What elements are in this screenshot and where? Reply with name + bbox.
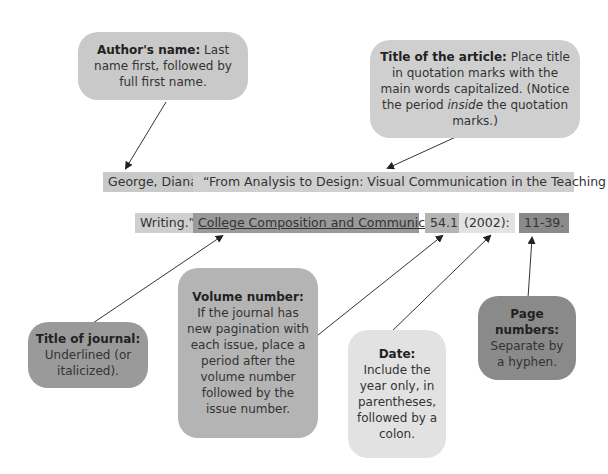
callout-article-italic: inside — [448, 98, 484, 112]
citation-pages: 11-39. — [519, 213, 569, 233]
citation-article-title-part1: “From Analysis to Design: Visual Communi… — [193, 172, 574, 192]
callout-date-label: Date: — [379, 347, 416, 361]
citation-journal-title: College Composition and Communication — [193, 213, 419, 233]
callout-date-body: Include the year only, in parentheses, f… — [357, 363, 437, 441]
callout-volume: Volume number: If the journal has new pa… — [178, 268, 318, 438]
callout-pages: Page numbers: Separate by a hyphen. — [478, 296, 576, 380]
callout-author-label: Author's name: — [97, 43, 200, 57]
callout-volume-body: If the journal has new pagination with e… — [187, 306, 309, 416]
callout-volume-label: Volume number: — [192, 290, 303, 304]
callout-journal-body: Underlined (or italicized). — [45, 348, 131, 378]
callout-pages-label: Page numbers: — [495, 307, 559, 337]
citation-article-title-part2: Writing.” — [135, 213, 200, 233]
callout-journal: Title of journal: Underlined (or italici… — [28, 322, 148, 388]
citation-date: (2002): — [459, 213, 515, 233]
citation-author: George, Diana. — [103, 172, 207, 192]
callout-journal-label: Title of journal: — [36, 332, 140, 346]
callout-article: Title of the article: Place title in quo… — [370, 40, 580, 138]
callout-date: Date: Include the year only, in parenthe… — [348, 330, 446, 458]
callout-pages-body: Separate by a hyphen. — [491, 339, 564, 369]
callout-author: Author's name: Last name first, followed… — [78, 32, 248, 100]
callout-article-label: Title of the article: — [380, 50, 507, 64]
citation-volume: 54.1 — [425, 213, 463, 233]
